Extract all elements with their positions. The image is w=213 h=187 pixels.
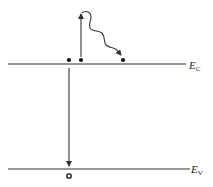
valence-band-subscript: V <box>198 169 203 177</box>
relaxation-wavy-arrow-icon <box>82 12 121 55</box>
hole-circle <box>67 174 71 178</box>
valence-band-symbol: E <box>191 163 198 175</box>
valence-band-label: EV <box>191 164 203 177</box>
electron-dot <box>121 58 125 62</box>
conduction-band-subscript: C <box>196 65 201 73</box>
conduction-band-symbol: E <box>189 59 196 71</box>
electron-dot <box>67 58 71 62</box>
electron-dot <box>79 58 83 62</box>
band-diagram: EC EV <box>0 0 213 187</box>
conduction-band-label: EC <box>189 60 200 73</box>
